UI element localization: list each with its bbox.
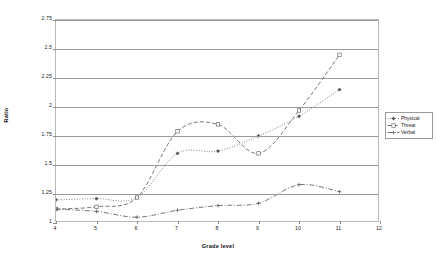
plus-marker [338, 190, 342, 194]
y-tickmark [53, 78, 56, 79]
open-square-marker [392, 124, 395, 127]
x-tickmark [299, 221, 300, 224]
x-tickmark [380, 221, 381, 224]
gridline [56, 20, 378, 21]
series-verbal [56, 183, 341, 219]
x-tickmark [178, 221, 179, 224]
y-tickmark [53, 107, 56, 108]
open-square-marker [135, 196, 138, 199]
y-tickmark [53, 136, 56, 137]
y-tick-label: 2.75 [24, 16, 52, 21]
filled-diamond-marker [216, 149, 219, 152]
y-tickmark [53, 194, 56, 195]
y-tick-label: 2.25 [24, 74, 52, 79]
y-tick-label: 2 [24, 103, 52, 108]
x-tickmark [259, 221, 260, 224]
plus-marker [176, 208, 180, 212]
series-line [56, 184, 340, 217]
y-tick-label: 2.5 [24, 45, 52, 50]
legend-label: Verbal [400, 129, 415, 136]
filled-diamond-marker [176, 152, 179, 155]
plus-marker [257, 201, 261, 205]
y-tick-label: 1.75 [24, 132, 52, 137]
plus-marker [95, 210, 99, 214]
plus-marker [216, 204, 220, 208]
y-tick-label: 1 [24, 219, 52, 224]
x-tick-label: 12 [369, 226, 389, 231]
open-square-marker [297, 109, 300, 112]
y-axis-title: Ratio [3, 95, 9, 135]
chart-legend: PhysicalThreatVerbal [385, 112, 433, 139]
filled-diamond-marker [95, 197, 98, 200]
gridline [56, 136, 378, 137]
legend-label: Threat [400, 122, 415, 129]
y-tickmark [53, 49, 56, 50]
x-tick-label: 9 [248, 226, 268, 231]
legend-swatch-icon [387, 115, 400, 122]
legend-label: Physical [400, 115, 420, 122]
x-axis-title: Grade level [0, 243, 436, 249]
plus-marker [392, 131, 396, 135]
gridline [56, 165, 378, 166]
filled-diamond-marker [297, 115, 300, 118]
open-square-marker [257, 152, 260, 155]
legend-swatch-icon [387, 122, 400, 129]
x-tickmark [97, 221, 98, 224]
x-tick-label: 8 [207, 226, 227, 231]
open-square-marker [176, 130, 179, 133]
x-tick-label: 7 [167, 226, 187, 231]
y-tickmark [53, 223, 56, 224]
y-tickmark [53, 20, 56, 21]
plus-marker [135, 215, 139, 219]
filled-diamond-marker [56, 198, 58, 201]
open-square-marker [95, 205, 98, 208]
y-tick-label: 1.25 [24, 190, 52, 195]
y-tickmark [53, 165, 56, 166]
open-square-marker [216, 123, 219, 126]
open-square-marker [338, 53, 341, 56]
legend-item-threat[interactable]: Threat [387, 122, 430, 129]
legend-item-physical[interactable]: Physical [387, 115, 430, 122]
gridline [56, 49, 378, 50]
x-tick-label: 6 [126, 226, 146, 231]
legend-swatch-icon [387, 129, 400, 136]
filled-diamond-marker [392, 117, 395, 120]
x-tick-label: 5 [86, 226, 106, 231]
ratio-by-grade-level-line-chart: 11.251.51.7522.252.52.75 Ratio 456789101… [0, 0, 436, 261]
x-tickmark [340, 221, 341, 224]
gridline [56, 78, 378, 79]
legend-item-verbal[interactable]: Verbal [387, 129, 430, 136]
x-tickmark [56, 221, 57, 224]
data-series-layer [56, 20, 380, 223]
gridline [56, 194, 378, 195]
x-tickmark [137, 221, 138, 224]
plus-marker [297, 183, 301, 187]
plot-area [55, 19, 379, 222]
y-tick-label: 1.5 [24, 161, 52, 166]
x-tick-label: 10 [288, 226, 308, 231]
x-tick-label: 11 [329, 226, 349, 231]
x-tick-label: 4 [45, 226, 65, 231]
x-tickmark [218, 221, 219, 224]
gridline [56, 107, 378, 108]
series-threat [56, 53, 341, 211]
